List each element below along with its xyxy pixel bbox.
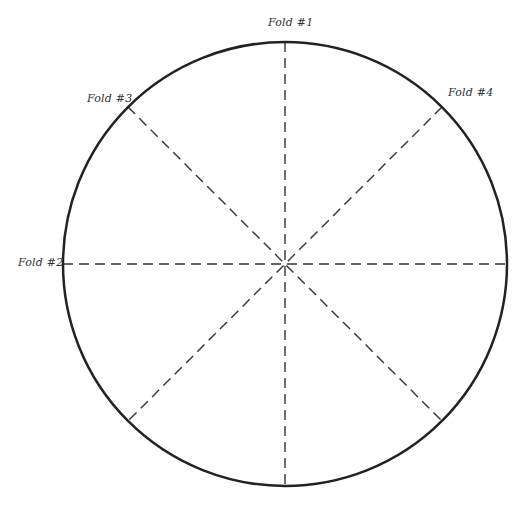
fold-label-3: Fold #3: [87, 92, 132, 105]
fold-diagram: [0, 0, 526, 505]
fold-label-2: Fold #2: [18, 256, 63, 269]
fold-label-1: Fold #1: [268, 16, 313, 29]
fold-lines: [63, 42, 507, 486]
fold-label-4: Fold #4: [448, 86, 493, 99]
